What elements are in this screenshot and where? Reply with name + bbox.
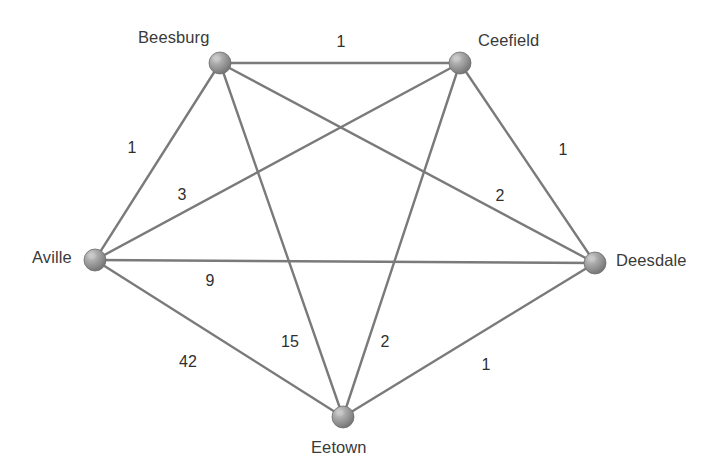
edge-weight-label-ceefield-deesdale: 1 <box>559 141 568 159</box>
nodes-group <box>84 52 606 428</box>
node-label-aville: Aville <box>32 248 72 267</box>
graph-node-eetown[interactable] <box>332 406 354 428</box>
graph-edge-ceefield-deesdale[interactable] <box>460 63 595 263</box>
graph-edge-beesburg-eetown[interactable] <box>220 63 343 417</box>
graph-node-deesdale[interactable] <box>584 252 606 274</box>
graph-node-aville[interactable] <box>84 249 106 271</box>
node-label-beesburg: Beesburg <box>138 28 209 47</box>
edge-weight-label-aville-ceefield: 3 <box>178 186 187 204</box>
graph-edge-aville-deesdale[interactable] <box>95 260 595 263</box>
edge-weight-label-ceefield-eetown: 2 <box>381 333 390 351</box>
network-graph-diagram: BeesburgCeefieldAvilleDeesdaleEetown 111… <box>0 0 715 474</box>
graph-svg-layer <box>0 0 715 474</box>
edges-group <box>95 63 595 417</box>
graph-node-beesburg[interactable] <box>209 52 231 74</box>
node-highlight-beesburg <box>213 56 221 62</box>
node-label-ceefield: Ceefield <box>478 31 539 50</box>
node-label-eetown: Eetown <box>311 438 367 457</box>
node-highlight-eetown <box>336 410 344 416</box>
graph-edge-aville-eetown[interactable] <box>95 260 343 417</box>
edge-weight-label-beesburg-deesdale: 2 <box>496 187 505 205</box>
edge-weight-label-aville-deesdale: 9 <box>206 272 215 290</box>
graph-edge-aville-beesburg[interactable] <box>95 63 220 260</box>
node-highlight-ceefield <box>453 56 461 62</box>
edge-weight-label-beesburg-eetown: 15 <box>281 333 299 351</box>
node-label-deesdale: Deesdale <box>616 251 687 270</box>
node-highlight-deesdale <box>588 256 596 262</box>
edge-weight-label-deesdale-eetown: 1 <box>482 356 491 374</box>
edge-weight-label-aville-beesburg: 1 <box>128 139 137 157</box>
edge-weight-label-beesburg-ceefield: 1 <box>337 33 346 51</box>
node-highlight-aville <box>88 253 96 259</box>
graph-node-ceefield[interactable] <box>449 52 471 74</box>
edge-weight-label-aville-eetown: 42 <box>179 353 197 371</box>
